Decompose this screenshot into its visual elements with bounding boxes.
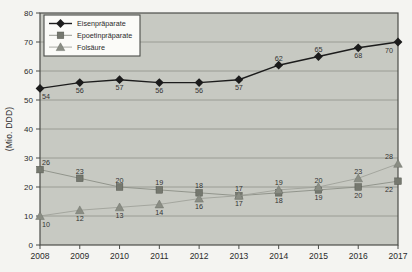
- x-tick-label: 2008: [31, 251, 50, 261]
- data-point-label: 62: [275, 54, 283, 63]
- legend-item-eisenpraparate: Eisenpräparate: [49, 19, 126, 28]
- data-point-label: 18: [195, 181, 203, 190]
- legend-item-epoetinpraparate: Epoetinpräparate: [49, 31, 132, 40]
- legend-label: Eisenpräparate: [77, 19, 126, 28]
- data-point-label: 54: [42, 92, 50, 101]
- data-point-label: 57: [116, 83, 124, 92]
- data-point-label: 56: [76, 86, 84, 95]
- x-tick-label: 2017: [389, 251, 408, 261]
- data-point-label: 17: [235, 184, 243, 193]
- x-tick-label: 2014: [269, 251, 288, 261]
- data-point-label: 68: [354, 51, 362, 60]
- data-point-label: 14: [155, 208, 163, 217]
- data-point-label: 18: [275, 196, 283, 205]
- data-point-label: 23: [76, 167, 84, 176]
- legend: EisenpräparateEpoetinpräparateFolsäure: [44, 15, 140, 56]
- data-point-label: 20: [116, 176, 124, 185]
- square-marker-icon: [355, 184, 362, 191]
- data-point-label: 28: [385, 152, 393, 161]
- square-marker-icon: [76, 175, 83, 182]
- line-chart-canvas: 0102030405060708020082009201020112012201…: [0, 0, 412, 272]
- data-point-label: 57: [235, 83, 243, 92]
- y-tick-label: 20: [24, 183, 33, 192]
- anemia-drugs-line-chart-figure: 0102030405060708020082009201020112012201…: [0, 0, 412, 272]
- data-point-label: 20: [314, 176, 322, 185]
- square-marker-icon: [116, 184, 123, 191]
- x-tick-label: 2016: [349, 251, 368, 261]
- data-point-label: 56: [195, 86, 203, 95]
- square-marker-icon: [156, 187, 163, 194]
- y-tick-label: 80: [24, 9, 33, 18]
- data-point-label: 12: [76, 214, 84, 223]
- y-tick-label: 50: [24, 96, 33, 105]
- data-point-label: 19: [155, 178, 163, 187]
- square-marker-icon: [395, 178, 402, 185]
- x-tick-label: 2010: [110, 251, 129, 261]
- data-point-label: 22: [385, 185, 393, 194]
- data-point-label: 20: [354, 191, 362, 200]
- y-axis-title: (Mio. DDD): [4, 107, 14, 152]
- data-point-label: 16: [195, 202, 203, 211]
- y-tick-label: 0: [29, 241, 34, 250]
- x-tick-label: 2015: [309, 251, 328, 261]
- y-tick-label: 70: [24, 38, 33, 47]
- x-tick-label: 2012: [190, 251, 209, 261]
- data-point-label: 19: [314, 193, 322, 202]
- data-point-label: 17: [235, 199, 243, 208]
- data-point-label: 23: [354, 167, 362, 176]
- legend-label: Folsäure: [77, 43, 105, 52]
- y-tick-label: 40: [24, 125, 33, 134]
- x-tick-label: 2009: [70, 251, 89, 261]
- data-point-label: 70: [385, 46, 393, 55]
- data-point-label: 26: [42, 158, 50, 167]
- y-tick-label: 60: [24, 67, 33, 76]
- x-tick-label: 2013: [229, 251, 248, 261]
- data-point-label: 19: [275, 178, 283, 187]
- square-marker-icon: [57, 32, 64, 39]
- data-point-label: 13: [116, 211, 124, 220]
- legend-label: Epoetinpräparate: [77, 31, 132, 40]
- x-tick-label: 2011: [150, 251, 169, 261]
- y-tick-label: 30: [24, 154, 33, 163]
- y-tick-label: 10: [24, 212, 33, 221]
- data-point-label: 56: [155, 86, 163, 95]
- data-point-label: 65: [314, 45, 322, 54]
- square-marker-icon: [37, 166, 44, 173]
- data-point-label: 10: [42, 220, 50, 229]
